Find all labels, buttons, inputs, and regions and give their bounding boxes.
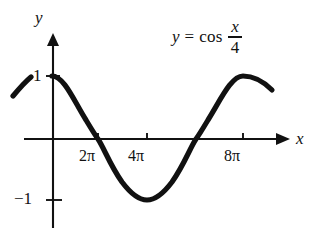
x-tick-label-8pi: 8π [224, 148, 240, 164]
equation-numerator: x [228, 18, 242, 36]
cosine-graph-figure [0, 0, 317, 239]
equation-annotation: y = cos x 4 [172, 18, 242, 56]
y-tick-label-minus-1: −1 [14, 190, 32, 207]
x-tick-label-2pi: 2π [79, 148, 95, 164]
equation-lhs: y [172, 28, 180, 45]
x-axis-arrowhead [276, 133, 290, 145]
curve-left-stub [13, 77, 31, 96]
equation-operator: = [185, 28, 195, 45]
x-axis-label: x [296, 130, 304, 147]
x-tick-label-4pi: 4π [128, 148, 144, 164]
y-tick-label-1: 1 [33, 67, 42, 84]
equation-function-name: cos [199, 28, 223, 45]
equation-fraction: x 4 [228, 18, 243, 56]
y-axis-label: y [35, 9, 43, 26]
equation-denominator: 4 [228, 38, 243, 56]
y-axis-arrowhead [47, 33, 59, 46]
